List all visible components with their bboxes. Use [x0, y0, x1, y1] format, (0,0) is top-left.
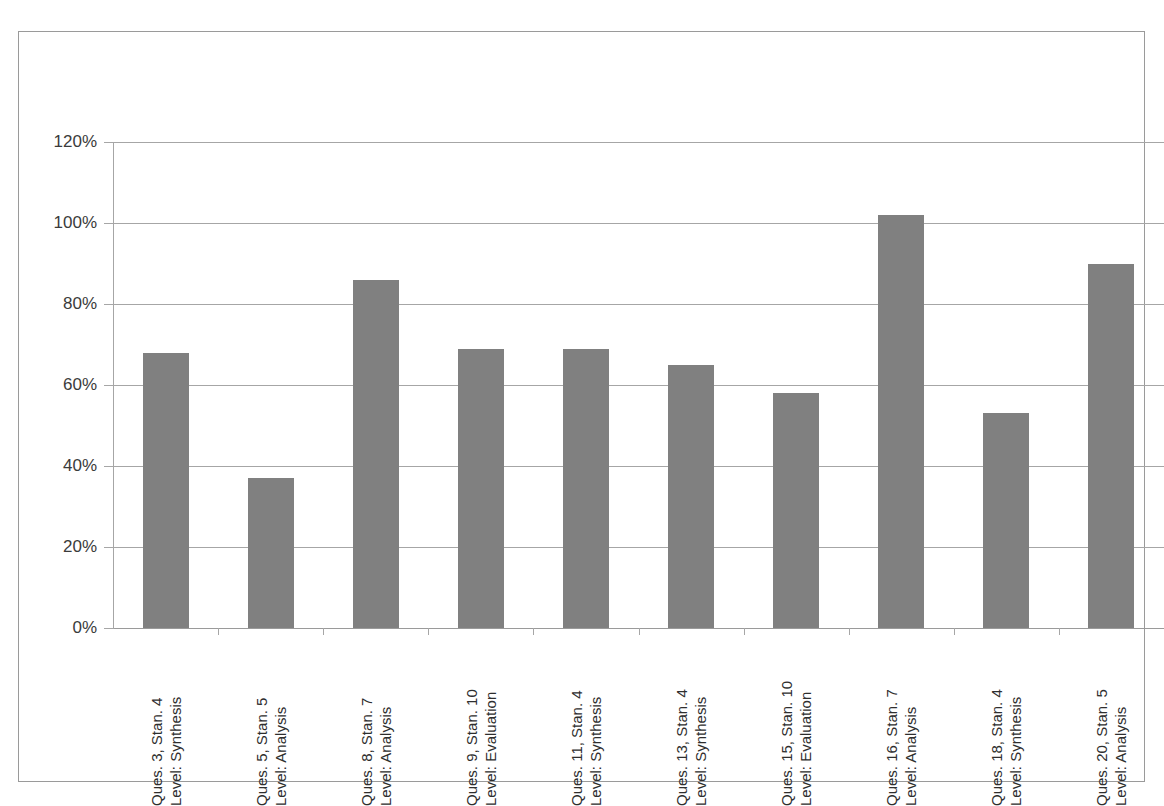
x-axis-category-label-line: Ques. 16, Stan. 7	[883, 636, 901, 806]
y-tick-mark	[104, 466, 113, 467]
x-tick-mark	[744, 628, 745, 635]
x-tick-mark	[323, 628, 324, 635]
y-tick-mark	[104, 223, 113, 224]
bar[interactable]	[668, 365, 714, 628]
y-axis-tick-label: 120%	[19, 133, 97, 150]
y-axis-tick-label: 80%	[19, 295, 97, 312]
x-axis-category-label-line: Level: Analysis	[377, 636, 395, 806]
x-axis-category-label-line: Level: Evaluation	[482, 636, 500, 806]
x-axis-category-label-line: Ques. 20, Stan. 5	[1093, 636, 1111, 806]
bar[interactable]	[773, 393, 819, 628]
x-axis-category-label-line: Ques. 5, Stan. 5	[253, 636, 271, 806]
value-axis-line	[113, 142, 114, 629]
x-axis-category-label-line: Level: Evaluation	[797, 636, 815, 806]
x-tick-mark	[954, 628, 955, 635]
x-axis-category-label-line: Level: Analysis	[272, 636, 290, 806]
y-axis-tick-label: 100%	[19, 214, 97, 231]
y-tick-mark	[104, 385, 113, 386]
x-axis-category-label-line: Ques. 9, Stan. 10	[463, 636, 481, 806]
y-tick-mark	[104, 304, 113, 305]
bar[interactable]	[1088, 264, 1134, 629]
x-tick-mark	[218, 628, 219, 635]
x-axis-category-label-line: Level: Synthesis	[587, 636, 605, 806]
plot-area	[113, 142, 1164, 628]
gridline-80	[113, 304, 1164, 305]
gridline-60	[113, 385, 1164, 386]
x-tick-mark	[639, 628, 640, 635]
x-axis-category-label-line: Ques. 18, Stan. 4	[988, 636, 1006, 806]
y-axis-tick-label: 20%	[19, 538, 97, 555]
x-axis-category-label-line: Level: Synthesis	[692, 636, 710, 806]
chart-outer-frame: 120%100%80%60%40%20%0%Ques. 3, Stan. 4Le…	[18, 31, 1145, 782]
y-axis-tick-label: 0%	[19, 619, 97, 636]
bar[interactable]	[248, 478, 294, 628]
y-tick-mark	[104, 547, 113, 548]
bar[interactable]	[563, 349, 609, 628]
x-tick-mark	[533, 628, 534, 635]
x-axis-category-label-line: Ques. 15, Stan. 10	[778, 636, 796, 806]
x-tick-mark	[1059, 628, 1060, 635]
bar[interactable]	[983, 413, 1029, 628]
x-axis-category-label-line: Ques. 13, Stan. 4	[673, 636, 691, 806]
x-axis-category-label-line: Ques. 3, Stan. 4	[148, 636, 166, 806]
x-axis-category-label-line: Level: Synthesis	[167, 636, 185, 806]
x-tick-mark	[849, 628, 850, 635]
x-axis-category-label-line: Ques. 11, Stan. 4	[568, 636, 586, 806]
bar[interactable]	[143, 353, 189, 628]
y-axis-tick-label: 40%	[19, 457, 97, 474]
bar[interactable]	[353, 280, 399, 628]
bar[interactable]	[878, 215, 924, 628]
bar[interactable]	[458, 349, 504, 628]
y-axis-tick-label: 60%	[19, 376, 97, 393]
y-tick-mark	[104, 142, 113, 143]
gridline-100	[113, 223, 1164, 224]
y-tick-mark	[104, 628, 113, 629]
x-tick-mark	[428, 628, 429, 635]
x-axis-category-label-line: Level: Synthesis	[1007, 636, 1025, 806]
x-axis-category-label-line: Level: Analysis	[1112, 636, 1130, 806]
x-axis-category-label-line: Ques. 8, Stan. 7	[358, 636, 376, 806]
gridline-120	[113, 142, 1164, 143]
x-axis-category-label-line: Level: Analysis	[902, 636, 920, 806]
